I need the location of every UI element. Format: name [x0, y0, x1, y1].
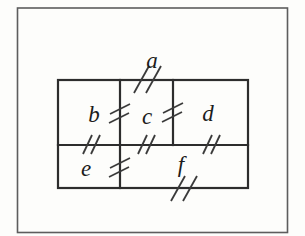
region-label-a: a — [146, 48, 158, 73]
region-label-f: f — [178, 152, 188, 177]
region-label-d: d — [202, 101, 214, 126]
region-label-c: c — [142, 104, 152, 129]
region-label-e: e — [81, 156, 91, 181]
rooms-and-doors-diagram: a b c d e f — [0, 0, 305, 236]
region-label-b: b — [88, 102, 100, 127]
figure-canvas: a b c d e f — [0, 0, 305, 236]
